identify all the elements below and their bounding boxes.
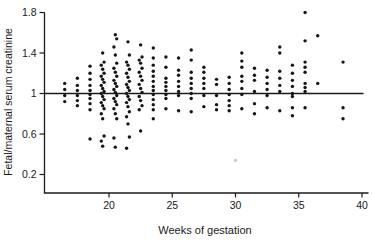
data-point [114,91,117,94]
data-point [303,86,306,89]
data-point [88,108,91,111]
data-point [126,40,129,43]
data-point [100,101,103,104]
data-point [139,99,142,102]
data-point [102,72,105,75]
data-point [190,82,193,85]
data-point [164,81,167,84]
data-point [128,135,131,138]
data-point [152,75,155,78]
data-point [291,95,294,98]
data-point [152,56,155,59]
data-point [291,106,294,109]
data-point [227,82,230,85]
data-point [102,90,105,93]
data-point [101,68,104,71]
data-point [112,97,115,100]
data-point [240,51,243,54]
data-point [115,37,118,40]
data-point [88,97,91,100]
data-point [126,105,129,108]
data-point [100,112,103,115]
data-point [76,99,79,102]
data-point [190,77,193,80]
data-point [125,146,128,149]
data-point [152,46,155,49]
data-point [139,61,142,64]
data-point [112,88,115,91]
data-point [291,79,294,82]
data-point [128,89,131,92]
data-point [253,66,256,69]
data-point [139,43,142,46]
data-point [102,107,105,110]
data-point [138,71,141,74]
data-point [125,115,128,118]
data-point [115,85,118,88]
data-point [278,51,281,54]
data-point [138,108,141,111]
data-point [101,95,104,98]
data-point [190,87,193,90]
data-point [316,82,319,85]
data-point [115,61,118,64]
data-point [227,76,230,79]
data-point [240,59,243,62]
data-point [177,69,180,72]
data-point [278,70,281,73]
data-point [152,85,155,88]
data-point [291,92,294,95]
data-point [240,80,243,83]
data-point [190,58,193,61]
data-point [278,45,281,48]
data-point [140,79,143,82]
data-point [126,76,129,79]
data-point [128,98,131,101]
data-point [190,48,193,51]
data-point [303,106,306,109]
scatter-plot: 0.20.611.41.82025303540 Weeks of gestati… [0,0,372,243]
x-tick-label: 30 [230,199,242,211]
y-tick-label: 1.4 [22,47,37,59]
faint-data-point [234,159,237,162]
data-point [112,45,115,48]
data-point [100,92,103,95]
data-point [177,56,180,59]
data-point [100,139,103,142]
data-point [115,94,118,97]
data-point [215,83,218,86]
data-point [341,60,344,63]
data-point [215,94,218,97]
data-point [240,107,243,110]
data-point [126,63,129,66]
data-point [112,136,115,139]
data-point [177,94,180,97]
data-point [139,129,142,132]
data-point [114,112,117,115]
data-point [177,85,180,88]
data-point [114,145,117,148]
data-point [177,74,180,77]
data-point [164,85,167,88]
data-point [76,84,79,87]
data-point [88,64,91,67]
data-point [164,97,167,100]
data-point [202,65,205,68]
data-point [88,72,91,75]
y-tick-label: 0.2 [22,168,37,180]
data-point [164,55,167,58]
data-point [114,33,117,36]
data-point [253,112,256,115]
data-point [164,89,167,92]
data-point [112,79,115,82]
data-point [140,104,143,107]
data-point [125,92,128,95]
data-point [114,100,117,103]
data-point [265,76,268,79]
data-point [139,75,142,78]
data-point [128,80,131,83]
data-point [114,82,117,85]
data-point [126,95,129,98]
data-point [291,63,294,66]
data-point [112,107,115,110]
